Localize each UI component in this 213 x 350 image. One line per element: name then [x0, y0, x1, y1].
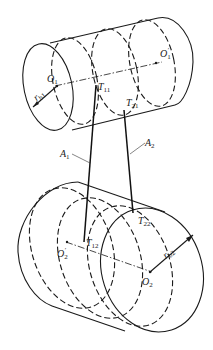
bottom-cylinder-axis	[66, 242, 152, 272]
top-cylinder-upper-edge	[50, 18, 158, 43]
two-cylinder-tangent-diagram: O1 O1′ rb1 T11 T21 A1 A2 T22 T12 O2′ O2 …	[0, 0, 213, 350]
center-O1prime-dot	[155, 62, 157, 64]
label-O1-prime: O1′	[160, 46, 171, 61]
leader-A1	[72, 154, 90, 163]
top-cylinder	[15, 15, 193, 135]
tangent-line-A1	[84, 85, 96, 242]
label-rb2: rb2	[160, 245, 177, 262]
bottom-hidden-circle-1	[15, 177, 129, 320]
bottom-front-end-circle	[85, 195, 213, 346]
label-T11: T11	[98, 81, 111, 94]
label-O2: O2	[142, 276, 153, 289]
tangent-line-A2	[124, 110, 133, 213]
label-O2-prime: O2′	[57, 246, 68, 261]
label-A1: A1	[59, 148, 70, 161]
leader-A2	[130, 143, 145, 154]
label-A2: A2	[144, 137, 155, 150]
bottom-cylinder	[15, 177, 213, 346]
top-right-end-circle	[158, 18, 193, 105]
center-O2-dot	[149, 271, 151, 273]
top-left-end-circle	[15, 39, 80, 135]
top-cylinder-axis	[55, 62, 162, 86]
center-O2prime-dot	[66, 241, 68, 243]
bottom-cylinder-upper-edge	[78, 182, 165, 212]
top-cylinder-lower-edge	[72, 105, 175, 130]
